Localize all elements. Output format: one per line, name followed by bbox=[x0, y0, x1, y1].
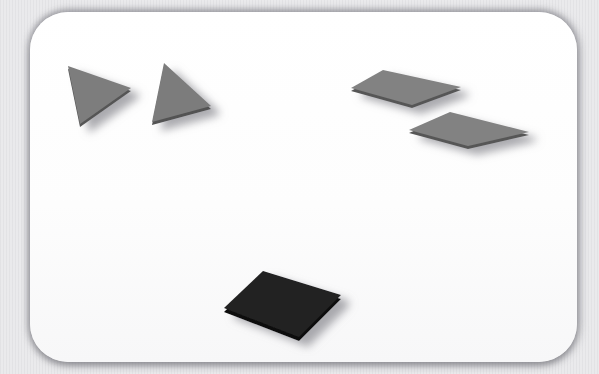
gray-triangle-small bbox=[68, 66, 131, 127]
shape-layer bbox=[68, 63, 529, 341]
gray-diamond-upper bbox=[351, 70, 461, 108]
gray-diamond-upper-face bbox=[351, 70, 461, 105]
black-diamond-face bbox=[224, 271, 341, 337]
gray-triangle-large-face bbox=[152, 63, 211, 122]
gray-diamond-lower-face bbox=[409, 112, 529, 146]
photo-background bbox=[0, 0, 599, 374]
black-diamond bbox=[224, 271, 341, 341]
shapes-canvas bbox=[0, 0, 599, 374]
gray-diamond-lower bbox=[409, 112, 529, 149]
gray-triangle-large bbox=[152, 63, 211, 125]
